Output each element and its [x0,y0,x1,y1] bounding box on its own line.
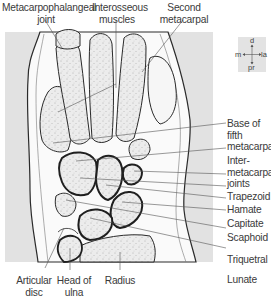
label-lunate: Lunate [227,274,257,286]
orientation-compass: d pr m la [238,37,266,72]
label-hamate: Hamate [227,204,261,216]
label-base-of-fifth-metacarpal: Base of fifth metacarpal [227,118,271,153]
label-interosseous-muscles: Interosseous muscles [92,2,142,25]
label-trapezoid: Trapezoid [227,191,270,203]
phalanx-base [56,30,80,50]
wrist-diagram: Metacarpophalangeal joint Interosseous m… [0,0,271,300]
compass-medial: m [235,51,241,59]
label-capitate: Capitate [227,218,263,230]
compass-proximal: pr [248,64,255,72]
trapezium-bone [129,139,150,159]
compass-lateral: la [261,51,267,59]
label-articular-disc: Articular disc [14,275,54,298]
label-triquetral: Triquetral [227,254,268,266]
label-metacarpophalangeal-joint: Metacarpophalangeal joint [2,2,90,25]
label-radius: Radius [102,275,138,287]
label-second-metacarpal: Second metacarpal [158,2,210,25]
triquetral-bone [55,193,76,216]
third-metacarpal [89,34,113,143]
compass-dorsal: d [250,37,254,45]
label-scaphoid: Scaphoid [227,232,268,244]
label-intermetacarpal-joints: Inter- metacarpal joints [227,155,271,190]
label-head-of-ulna: Head of ulna [56,275,92,298]
